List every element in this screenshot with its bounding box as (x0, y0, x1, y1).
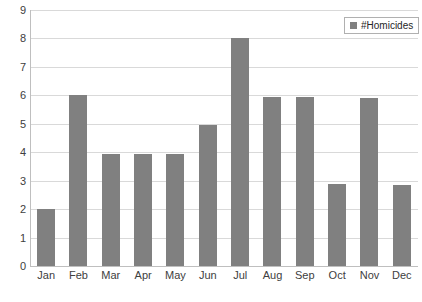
x-tick-label: Dec (386, 270, 418, 281)
bar[interactable] (166, 154, 184, 266)
bar-slot (386, 10, 418, 266)
bar[interactable] (296, 97, 314, 266)
bar[interactable] (69, 95, 87, 266)
x-tick-label: Jan (30, 270, 62, 281)
bar[interactable] (393, 185, 411, 266)
x-tick-label: Nov (353, 270, 385, 281)
y-tick-label: 5 (2, 118, 26, 129)
x-tick-label: Mar (95, 270, 127, 281)
legend-label: #Homicides (361, 21, 413, 31)
y-tick-label: 7 (2, 61, 26, 72)
bar-slot (95, 10, 127, 266)
x-tick-label: Oct (321, 270, 353, 281)
y-tick-label: 6 (2, 90, 26, 101)
bar-slot (159, 10, 191, 266)
x-tick-label: Jun (192, 270, 224, 281)
y-tick-label: 4 (2, 147, 26, 158)
y-tick-label: 2 (2, 204, 26, 215)
bar[interactable] (134, 154, 152, 266)
x-tick-label: May (159, 270, 191, 281)
x-tick-label: Sep (289, 270, 321, 281)
bar[interactable] (231, 38, 249, 266)
bar-slot (321, 10, 353, 266)
bar-slot (256, 10, 288, 266)
bar[interactable] (37, 209, 55, 266)
x-axis-tick-labels: JanFebMarAprMayJunJulAugSepOctNovDec (30, 270, 418, 290)
x-tick-label: Jul (224, 270, 256, 281)
chart-legend[interactable]: #Homicides (344, 17, 419, 34)
bar[interactable] (199, 125, 217, 266)
bar-slot (192, 10, 224, 266)
bar-chart: 0123456789 JanFebMarAprMayJunJulAugSepOc… (0, 0, 422, 302)
y-tick-label: 8 (2, 33, 26, 44)
bar-slot (353, 10, 385, 266)
bar-slot (62, 10, 94, 266)
bar[interactable] (102, 154, 120, 266)
y-tick-label: 1 (2, 232, 26, 243)
bar-slot (224, 10, 256, 266)
x-tick-label: Apr (127, 270, 159, 281)
bar-slot (289, 10, 321, 266)
gridline-0 (30, 266, 418, 267)
bar[interactable] (360, 98, 378, 266)
bars-layer (30, 10, 418, 266)
bar[interactable] (328, 184, 346, 266)
y-tick-label: 0 (2, 261, 26, 272)
bar-slot (30, 10, 62, 266)
bar[interactable] (263, 97, 281, 266)
x-tick-label: Aug (256, 270, 288, 281)
y-tick-label: 9 (2, 5, 26, 16)
legend-swatch-icon (350, 22, 357, 29)
x-tick-label: Feb (62, 270, 94, 281)
y-axis-tick-labels: 0123456789 (0, 10, 26, 266)
bar-slot (127, 10, 159, 266)
y-tick-label: 3 (2, 175, 26, 186)
